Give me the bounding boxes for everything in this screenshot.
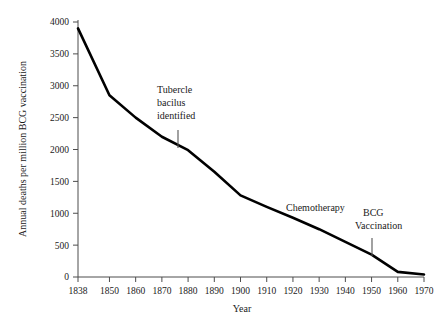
x-tick-label: 1890 [205,286,224,296]
x-tick-label: 1838 [69,286,88,296]
y-axis-title: Annual deaths per million BCG vaccinatio… [17,61,28,237]
y-tick-label: 1000 [50,209,69,219]
y-tick-label: 1500 [50,177,69,187]
x-tick-group: 1838185018601870188018901900191019201930… [69,277,434,296]
y-tick-label: 0 [64,272,69,282]
x-tick-label: 1880 [179,286,198,296]
data-series-line [78,28,424,274]
x-tick-label: 1950 [362,286,381,296]
annotation-chemotherapy: Chemotherapy [286,202,345,213]
y-tick-label: 3500 [50,49,69,59]
annotation-bcg-line2: Vaccination [355,220,402,231]
annotation-tubercle-line1: Tubercle [157,84,193,95]
x-tick-label: 1940 [336,286,355,296]
x-axis-title: Year [233,303,252,314]
x-tick-label: 1870 [152,286,171,296]
annotation-tubercle-line2: bacilus [157,97,185,108]
y-tick-label: 2000 [50,145,69,155]
annotation-bcg-line1: BCG [363,207,384,218]
y-tick-label: 3000 [50,81,69,91]
x-tick-label: 1850 [100,286,119,296]
y-tick-label: 2500 [50,113,69,123]
x-tick-label: 1930 [310,286,329,296]
x-tick-label: 1900 [231,286,250,296]
y-tick-label: 4000 [50,17,69,27]
x-tick-label: 1920 [283,286,302,296]
x-tick-label: 1860 [126,286,145,296]
x-tick-label: 1970 [415,286,434,296]
line-chart-svg: 05001000150020002500300035004000 1838185… [0,0,436,329]
y-tick-label: 500 [55,241,70,251]
x-tick-label: 1910 [257,286,276,296]
annotation-tubercle-line3: identified [157,110,195,121]
y-tick-group: 05001000150020002500300035004000 [50,17,78,282]
annotation-chemotherapy-label: Chemotherapy [286,202,345,213]
x-tick-label: 1960 [388,286,407,296]
chart-figure: 05001000150020002500300035004000 1838185… [0,0,436,329]
